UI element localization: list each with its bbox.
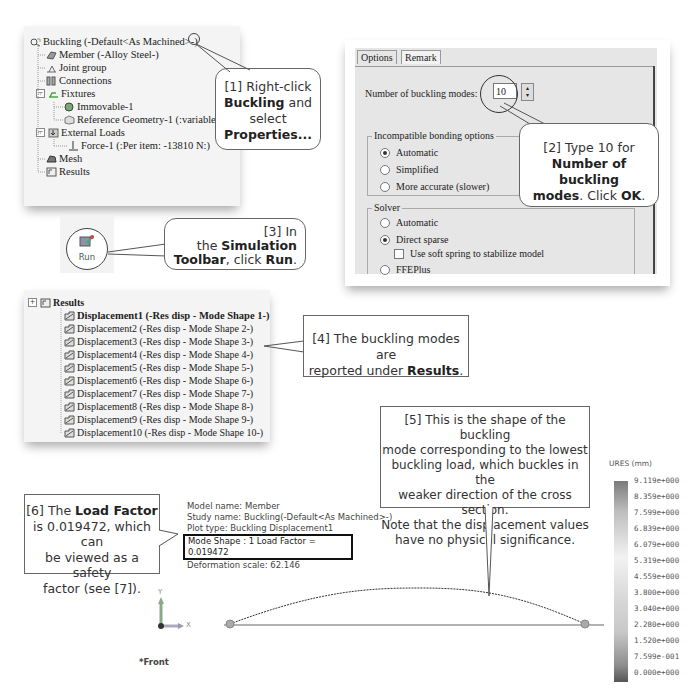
expand-toggle[interactable]: + (28, 298, 37, 307)
force-icon (68, 141, 79, 151)
results-folder[interactable]: + Results (28, 296, 84, 309)
mesh-icon (46, 154, 57, 164)
axis-triad: Y X (150, 592, 200, 632)
modes-label: Number of buckling modes: (365, 88, 477, 99)
modes-spinner[interactable]: ▴▾ (521, 83, 534, 101)
result-item-displacement6[interactable]: Displacement6 (-Res disp - Mode Shape 6-… (64, 374, 253, 387)
result-item-displacement1[interactable]: Displacement1 (-Res disp - Mode Shape 1-… (64, 309, 270, 322)
reference-geometry-icon (64, 115, 75, 125)
radio-dot (380, 165, 390, 175)
fixtures-icon (48, 89, 59, 99)
radio-dot (380, 218, 390, 228)
tree-item-connections[interactable]: Connections (46, 74, 112, 88)
results-folder-icon (46, 167, 57, 177)
result-plot-icon (64, 428, 75, 438)
tree-item-results[interactable]: Results (46, 165, 90, 179)
run-button[interactable]: Run (66, 228, 108, 270)
part-icon (46, 50, 57, 60)
radio-bonding-more-accurate[interactable]: More accurate (slower) (380, 181, 489, 192)
radio-bonding-simplified[interactable]: Simplified (380, 164, 438, 175)
tab-divider (355, 66, 655, 67)
result-plot-icon (64, 389, 75, 399)
study-name: Study name: Buckling(-Default<As Machine… (187, 512, 407, 523)
results-tree-panel: + Results Displacement1 (-Res disp - Mod… (24, 290, 270, 442)
result-item-displacement4[interactable]: Displacement4 (-Res disp - Mode Shape 4-… (64, 348, 253, 361)
result-plot-icon (64, 376, 75, 386)
result-item-displacement5[interactable]: Displacement5 (-Res disp - Mode Shape 5-… (64, 361, 253, 374)
collapse-toggle[interactable]: − (36, 128, 45, 137)
color-legend-bar (614, 481, 628, 682)
callout-4: [4] The buckling modes are reported unde… (303, 315, 469, 377)
result-plot-icon (64, 311, 75, 321)
external-loads-icon (48, 128, 59, 138)
result-plot-icon (64, 415, 75, 425)
fixture-left (226, 620, 234, 628)
fixture-right (581, 620, 589, 628)
view-orientation-label: *Front (139, 657, 169, 667)
plot-type: Plot type: Buckling Displacement1 (187, 523, 407, 534)
highlight-circle (188, 33, 200, 45)
tree-item-joint-group[interactable]: Joint group (46, 61, 107, 75)
tab-remark[interactable]: Remark (401, 50, 441, 64)
model-name: Model name: Member (187, 501, 407, 512)
legend-title: URES (mm) (609, 459, 652, 468)
result-item-displacement2[interactable]: Displacement2 (-Res disp - Mode Shape 2-… (64, 322, 253, 335)
result-item-displacement7[interactable]: Displacement7 (-Res disp - Mode Shape 7-… (64, 387, 253, 400)
feature-tree-panel: Buckling (-Default<As Machined>-) Member… (24, 26, 240, 206)
result-item-displacement3[interactable]: Displacement3 (-Res disp - Mode Shape 3-… (64, 335, 253, 348)
result-item-displacement9[interactable]: Displacement9 (-Res disp - Mode Shape 9-… (64, 413, 253, 426)
results-folder-icon (40, 298, 51, 308)
highlight-circle (480, 75, 518, 113)
fixed-icon (64, 102, 75, 112)
radio-dot (380, 265, 390, 275)
soft-spring-checkbox[interactable]: Use soft spring to stabilize model (394, 248, 544, 259)
callout-1: [1] Right-click Buckling and select Prop… (215, 68, 321, 150)
result-item-displacement10[interactable]: Displacement10 (-Res disp - Mode Shape 1… (64, 426, 263, 439)
radio-dot (380, 235, 390, 245)
solver-group: Solver Automatic Direct sparse Use soft … (367, 208, 635, 274)
radio-solver-direct-sparse[interactable]: Direct sparse (380, 234, 448, 245)
tree-item-reference-geometry[interactable]: Reference Geometry-1 (:variable:) (64, 113, 222, 127)
run-icon (79, 234, 95, 248)
tree-item-immovable[interactable]: Immovable-1 (64, 100, 134, 114)
deformed-beam (230, 588, 585, 624)
tree-item-fixtures[interactable]: − Fixtures (36, 87, 95, 101)
deformation-scale: Deformation scale: 62.146 (187, 560, 407, 571)
tab-options[interactable]: Options (357, 50, 397, 64)
result-plot-icon (64, 363, 75, 373)
plot-info: Model name: Member Study name: Buckling(… (187, 501, 407, 571)
joint-group-icon (46, 63, 57, 73)
result-item-displacement8[interactable]: Displacement8 (-Res disp - Mode Shape 8-… (64, 400, 253, 413)
connections-icon (46, 76, 57, 86)
callout-3: [3] In the Simulation Toolbar, click Run… (164, 218, 306, 270)
checkbox-box (394, 249, 404, 259)
result-plot-icon (64, 402, 75, 412)
result-plot-icon (64, 350, 75, 360)
callout-5: [5] This is the shape of the buckling mo… (380, 406, 590, 508)
tree-item-force[interactable]: Force-1 (:Per item: -13810 N:) (68, 139, 210, 153)
callout-2: [2] Type 10 for Number of buckling modes… (519, 123, 659, 207)
result-plot-icon (64, 324, 75, 334)
study-icon (30, 37, 41, 47)
tree-item-mesh[interactable]: Mesh (46, 152, 82, 166)
mode-shape-load-factor: Mode Shape : 1 Load Factor = 0.019472 (183, 534, 353, 560)
radio-dot (380, 148, 390, 158)
result-plot-icon (64, 337, 75, 347)
tree-item-member[interactable]: Member (-Alloy Steel-) (46, 48, 159, 62)
tree-item-buckling-study[interactable]: Buckling (-Default<As Machined>-) (30, 35, 198, 49)
radio-solver-automatic[interactable]: Automatic (380, 217, 438, 228)
tree-item-external-loads[interactable]: − External Loads (36, 126, 125, 140)
collapse-toggle[interactable]: − (36, 89, 45, 98)
radio-solver-ffeplus[interactable]: FFEPlus (380, 264, 430, 275)
radio-bonding-automatic[interactable]: Automatic (380, 147, 438, 158)
coordinate-axes-icon (150, 592, 200, 632)
radio-dot (380, 182, 390, 192)
callout-6: [6] The Load Factor is 0.019472, which c… (24, 494, 160, 574)
